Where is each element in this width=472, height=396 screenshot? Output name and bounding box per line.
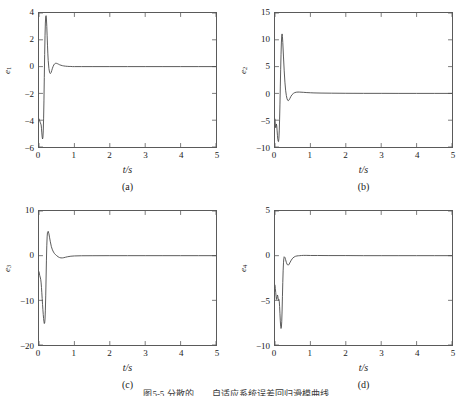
y-tick-label: −2 [24, 89, 34, 98]
y-tick-label: 0 [30, 62, 35, 71]
plot-area-c [38, 210, 217, 346]
y-tick-label: 10 [261, 35, 270, 44]
x-tick-label: 0 [266, 349, 282, 358]
y-ticks-a: −6−4−2024 [0, 0, 36, 198]
y-ticks-c: −20−10010 [0, 198, 36, 396]
y-tick-label: 2 [30, 35, 35, 44]
y-tick-label: 0 [266, 251, 271, 260]
x-tick-label: 1 [302, 349, 318, 358]
x-tick-label: 3 [373, 151, 389, 160]
panel-d: e4 −10−505 t/s (d) 012345 [236, 198, 472, 396]
panel-c: e3 −20−10010 t/s (c) 012345 [0, 198, 236, 396]
plot-area-a [38, 12, 217, 148]
y-tick-label: −5 [260, 296, 270, 305]
y-ticks-b: −10−5051015 [236, 0, 272, 198]
figure-container: e1 −6−4−2024 t/s (a) 012345 e2 −10−50510… [0, 0, 472, 396]
y-tick-label: 15 [261, 8, 270, 17]
y-tick-label: 5 [266, 206, 271, 215]
x-tick-label: 4 [173, 151, 189, 160]
x-tick-label: 5 [445, 151, 461, 160]
y-tick-label: 0 [30, 251, 35, 260]
x-tick-label: 4 [409, 151, 425, 160]
y-tick-label: −4 [24, 116, 34, 125]
plot-svg-c [39, 211, 216, 345]
x-axis-label-b: t/s [274, 164, 453, 175]
x-axis-label-a: t/s [38, 164, 217, 175]
figure-caption: 图5-5 分散的……自适应系统误差回归滑模曲线 [0, 387, 472, 396]
x-tick-label: 3 [137, 349, 153, 358]
data-line-e3 [39, 231, 216, 323]
x-tick-label: 2 [102, 151, 118, 160]
panel-b: e2 −10−5051015 t/s (b) 012345 [236, 0, 472, 198]
data-line-e1 [39, 16, 216, 139]
x-tick-label: 0 [30, 151, 46, 160]
x-tick-label: 3 [373, 349, 389, 358]
x-tick-label: 1 [302, 151, 318, 160]
x-tick-label: 1 [66, 349, 82, 358]
y-tick-label: 0 [266, 89, 271, 98]
x-tick-label: 0 [266, 151, 282, 160]
subcaption-a: (a) [38, 181, 217, 192]
x-tick-label: 2 [338, 349, 354, 358]
y-tick-label: 4 [30, 8, 35, 17]
x-tick-label: 1 [66, 151, 82, 160]
x-tick-label: 2 [338, 151, 354, 160]
x-axis-label-c: t/s [38, 362, 217, 373]
plot-area-b [274, 12, 453, 148]
plot-area-d [274, 210, 453, 346]
x-tick-label: 3 [137, 151, 153, 160]
x-tick-label: 5 [209, 151, 225, 160]
x-tick-label: 4 [409, 349, 425, 358]
y-tick-label: −5 [260, 116, 270, 125]
data-line-e4 [275, 255, 452, 328]
x-tick-label: 5 [209, 349, 225, 358]
x-tick-label: 2 [102, 349, 118, 358]
plot-svg-d [275, 211, 452, 345]
x-tick-label: 0 [30, 349, 46, 358]
y-ticks-d: −10−505 [236, 198, 272, 396]
y-tick-label: 10 [25, 206, 34, 215]
x-tick-label: 4 [173, 349, 189, 358]
y-tick-label: −10 [20, 296, 34, 305]
x-tick-label: 5 [445, 349, 461, 358]
subcaption-b: (b) [274, 181, 453, 192]
plot-svg-a [39, 13, 216, 147]
data-line-e2 [275, 34, 452, 142]
y-tick-label: 5 [266, 62, 271, 71]
x-axis-label-d: t/s [274, 362, 453, 373]
panel-a: e1 −6−4−2024 t/s (a) 012345 [0, 0, 236, 198]
plot-svg-b [275, 13, 452, 147]
